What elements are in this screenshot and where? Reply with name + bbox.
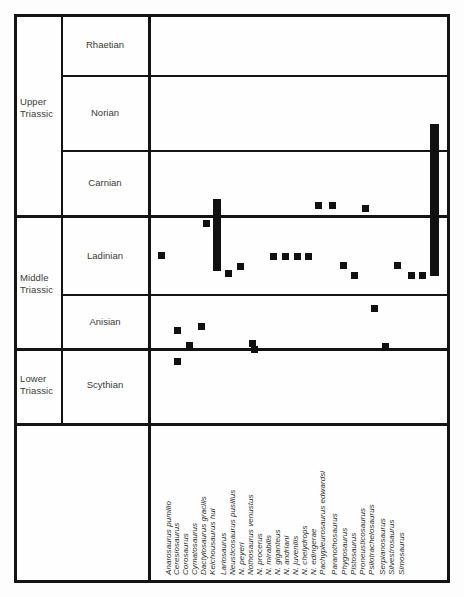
taxon-label: Lariosaurus (220, 533, 228, 575)
taxon-label: N. procerus (256, 533, 264, 575)
taxon-label: N. mirabilis (265, 535, 273, 575)
taxon-label: Simosaurus (398, 532, 406, 575)
taxon-label: Phygosaurus (341, 528, 349, 575)
taxon-label: Silvestrosaurus (388, 520, 396, 575)
taxon-label: N. chelydrops (301, 525, 309, 575)
taxon-label: Pistosaurus (350, 533, 358, 575)
figure-canvas: Upper Triassic Middle Triassic Lower Tri… (0, 0, 464, 597)
taxon-label: Psilotrachelosaurus (368, 504, 376, 575)
taxon-label: Proneusticosaurus (359, 508, 367, 575)
taxon-label: N. edingerae (310, 529, 318, 575)
taxon-label: Neusticosaurus pusillus (229, 490, 237, 575)
taxon-label: Nothosaurus venustus (247, 494, 255, 575)
taxon-label: N. andriani (283, 536, 291, 575)
taxon-label: Serpianosaurus (379, 518, 387, 575)
taxon-label: N. peyeri (238, 543, 246, 575)
taxon-label: Paranothosaurus (331, 513, 339, 575)
taxon-label: Keichousaurus hui (209, 508, 217, 575)
taxon-label: Cymatosaurus (191, 523, 199, 575)
taxon-label-axis: Anarosaurus pumilioCeresiosaurusCorosaur… (0, 0, 464, 597)
taxon-label: N. giganteus (274, 529, 282, 575)
taxon-label: N. juvenilis (292, 536, 300, 575)
taxon-label: Corosaurus (182, 533, 190, 575)
taxon-label: Ceresiosaurus (173, 523, 181, 575)
taxon-label: Dactylosaurus gracilis (200, 496, 208, 575)
taxon-label: Pachypleurosaurus edwardsi (319, 471, 327, 575)
